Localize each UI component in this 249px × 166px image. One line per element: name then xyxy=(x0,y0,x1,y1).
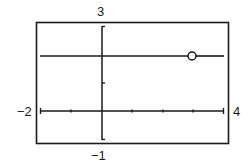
ymin-label: −1 xyxy=(91,149,106,162)
window-frame xyxy=(37,23,229,144)
graph-canvas xyxy=(0,0,249,166)
xmin-label: −2 xyxy=(17,105,32,118)
open-circle-hole xyxy=(188,52,196,60)
xmax-label: 4 xyxy=(233,105,240,118)
ymax-label: 3 xyxy=(97,5,104,18)
